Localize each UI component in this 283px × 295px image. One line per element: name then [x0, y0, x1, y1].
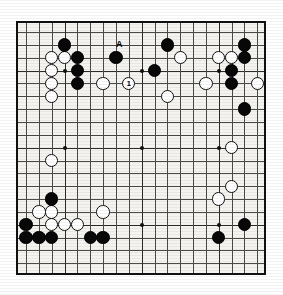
- white-stone[interactable]: [225, 141, 238, 154]
- point-label-a: A: [116, 40, 123, 49]
- white-stone[interactable]: [96, 77, 109, 90]
- go-diagram: 1 A: [0, 0, 283, 295]
- white-stone[interactable]: [71, 218, 84, 231]
- black-stone[interactable]: [225, 64, 238, 77]
- black-stone[interactable]: [212, 231, 225, 244]
- star-point: [140, 223, 144, 227]
- black-stone[interactable]: [148, 64, 161, 77]
- white-stone[interactable]: [58, 218, 71, 231]
- white-stone[interactable]: [58, 51, 71, 64]
- go-board[interactable]: 1 A: [16, 21, 266, 275]
- grid-line-vertical: [193, 23, 194, 273]
- black-stone[interactable]: [84, 231, 97, 244]
- white-stone[interactable]: [251, 77, 264, 90]
- white-stone[interactable]: [45, 77, 58, 90]
- black-stone[interactable]: [45, 192, 58, 205]
- black-stone[interactable]: [19, 231, 32, 244]
- white-stone[interactable]: [212, 51, 225, 64]
- black-stone[interactable]: [71, 64, 84, 77]
- grid-line-vertical: [167, 23, 168, 273]
- white-stone[interactable]: [45, 218, 58, 231]
- star-point: [217, 69, 221, 73]
- black-stone[interactable]: [225, 77, 238, 90]
- white-stone[interactable]: [45, 90, 58, 103]
- black-stone[interactable]: [71, 77, 84, 90]
- black-stone[interactable]: [45, 231, 58, 244]
- white-stone[interactable]: [32, 205, 45, 218]
- white-stone[interactable]: [174, 51, 187, 64]
- star-point: [140, 69, 144, 73]
- star-point: [140, 146, 144, 150]
- black-stone[interactable]: [32, 231, 45, 244]
- black-stone[interactable]: [96, 231, 109, 244]
- numbered-stone[interactable]: 1: [122, 77, 135, 90]
- black-stone[interactable]: [58, 38, 71, 51]
- black-stone[interactable]: [71, 51, 84, 64]
- black-stone[interactable]: [19, 218, 32, 231]
- white-stone[interactable]: [45, 205, 58, 218]
- white-stone[interactable]: [225, 180, 238, 193]
- black-stone[interactable]: [161, 38, 174, 51]
- grid-line-vertical: [206, 23, 207, 273]
- grid-line-vertical: [257, 23, 258, 273]
- white-stone[interactable]: [45, 64, 58, 77]
- black-stone[interactable]: [109, 51, 122, 64]
- white-stone[interactable]: [45, 51, 58, 64]
- star-point: [63, 69, 67, 73]
- star-point: [217, 223, 221, 227]
- white-stone[interactable]: [161, 90, 174, 103]
- white-stone[interactable]: [199, 77, 212, 90]
- white-stone[interactable]: [212, 192, 225, 205]
- grid-line-vertical: [129, 23, 130, 273]
- white-stone[interactable]: [45, 154, 58, 167]
- star-point: [217, 146, 221, 150]
- black-stone[interactable]: [238, 51, 251, 64]
- white-stone[interactable]: [225, 51, 238, 64]
- white-stone[interactable]: [96, 205, 109, 218]
- black-stone[interactable]: [238, 102, 251, 115]
- grid-line-vertical: [155, 23, 156, 273]
- stone-move-number: 1: [123, 78, 134, 89]
- black-stone[interactable]: [238, 38, 251, 51]
- black-stone[interactable]: [238, 218, 251, 231]
- star-point: [63, 146, 67, 150]
